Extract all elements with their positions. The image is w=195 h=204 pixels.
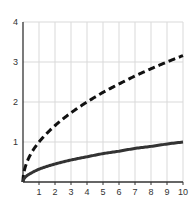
y-tick-label: 1 [13, 137, 18, 147]
x-tick-label: 8 [148, 187, 153, 197]
x-tick-label: 9 [164, 187, 169, 197]
grid [23, 22, 183, 182]
x-tick-label: 5 [100, 187, 105, 197]
x-tick-label: 6 [116, 187, 121, 197]
y-tick-label: 3 [13, 57, 18, 67]
y-tick-label: 2 [13, 97, 18, 107]
x-tick-label: 10 [178, 187, 188, 197]
y-tick-label: 4 [13, 17, 18, 27]
x-tick-label: 4 [84, 187, 89, 197]
chart: 123456789101234 [0, 0, 195, 204]
x-tick-label: 1 [36, 187, 41, 197]
x-tick-label: 3 [68, 187, 73, 197]
x-tick-label: 2 [52, 187, 57, 197]
x-tick-label: 7 [132, 187, 137, 197]
